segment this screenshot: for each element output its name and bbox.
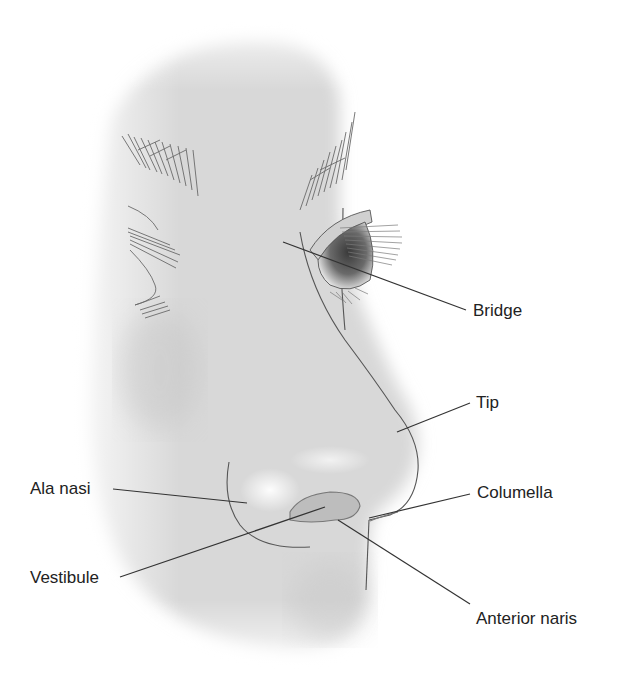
label-tip: Tip [476,394,499,411]
face-shape [60,0,460,678]
label-columella: Columella [477,484,553,501]
label-anterior-naris: Anterior naris [476,610,577,627]
label-vestibule: Vestibule [30,569,99,586]
label-bridge: Bridge [473,302,522,319]
label-ala-nasi: Ala nasi [30,480,90,497]
